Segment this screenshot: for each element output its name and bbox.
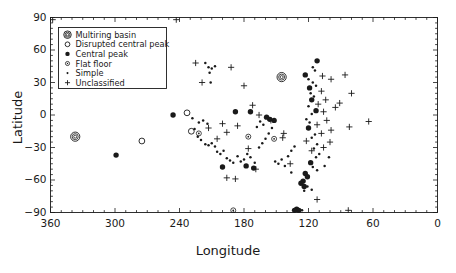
y-tick-label: −90 [17,206,47,218]
legend-label-simple: Simple [76,68,104,78]
legend-label-unclassified: Unclassified [76,78,125,88]
y-tick-label: 60 [17,43,47,55]
x-axis-label: Longitude [0,243,456,258]
x-tick-label: 0 [418,217,456,229]
legend-label-central: Central peak [76,49,128,59]
x-tick-label: 180 [224,217,264,229]
legend-marker-central [65,52,69,56]
scatter-plot-figure [0,0,456,273]
legend-marker-simple [66,72,68,74]
legend-label-multiring: Multiring basin [76,30,137,40]
y-tick-label: 0 [17,108,47,120]
y-tick-label: −30 [17,141,47,153]
y-tick-label: −60 [17,173,47,185]
legend-label-flatfloor: Flat floor [76,59,112,69]
series-disrupted [139,110,194,144]
y-tick-label: 90 [17,11,47,23]
x-tick-label: 240 [160,217,200,229]
x-tick-label: 300 [95,217,135,229]
series-simple [191,62,330,212]
x-tick-label: 60 [353,217,393,229]
legend-label-disrupted: Disrupted central peak [76,39,170,49]
x-tick-label: 120 [289,217,329,229]
y-tick-label: 30 [17,76,47,88]
x-tick-label: 360 [31,217,71,229]
series-flatfloor [196,131,276,213]
